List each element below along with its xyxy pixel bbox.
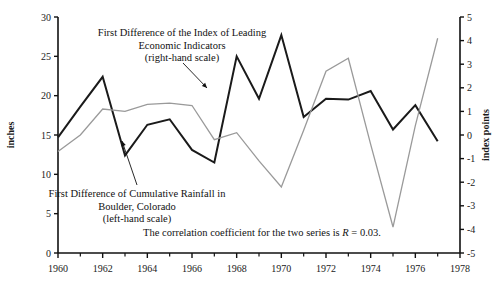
left-axis-title: inches [5,122,16,149]
lei-annotation-arrow [183,63,207,88]
x-axis-tick-label: 1974 [361,263,381,274]
lei-annotation-line: First Difference of the Index of Leading [98,27,267,38]
left-axis-tick-label: 15 [41,130,51,141]
right-axis-tick-label: 0 [467,130,472,141]
correlation-note: The correlation coefficient for the two … [143,227,381,238]
right-axis-title: index points [480,109,491,161]
rainfall-annotation-arrow-head [121,141,125,146]
rainfall-annotation-line: Boulder, Colorado [98,201,176,212]
right-axis-tick-label: 4 [467,35,472,46]
correlation-note-suffix: = 0.03. [349,227,381,238]
left-axis-tick-label: 0 [46,248,51,259]
annotations-group: First Difference of the Index of Leading… [49,27,381,238]
x-axis-tick-label: 1968 [227,263,247,274]
right-axis-tick-label: -1 [467,153,475,164]
right-axis-tick-label: -3 [467,200,475,211]
x-axis-tick-label: 1976 [405,263,425,274]
right-axis-tick-label: 3 [467,59,472,70]
x-axis-tick-label: 1978 [450,263,470,274]
chart-canvas: 302520151050543210-1-2-3-4-5196019621964… [0,0,500,289]
right-axis-tick-label: 5 [467,12,472,23]
right-axis-tick-label: 2 [467,82,472,93]
right-axis-tick-label: 1 [467,106,472,117]
right-axis-tick-label: -2 [467,177,475,188]
x-axis-tick-label: 1962 [93,263,113,274]
left-axis-tick-label: 30 [41,12,51,23]
lei-annotation-line: Economic Indicators [138,40,225,51]
x-axis-tick-label: 1966 [182,263,202,274]
left-axis-tick-label: 10 [41,169,51,180]
series-line-rainfall [58,35,438,162]
right-axis-tick-label: -5 [467,248,475,259]
lei-annotation-line: (right-hand scale) [145,52,220,64]
x-axis-tick-label: 1972 [316,263,336,274]
rainfall-annotation-line: First Difference of Cumulative Rainfall … [49,188,227,199]
left-axis-tick-label: 25 [41,51,51,62]
chart-figure: 302520151050543210-1-2-3-4-5196019621964… [0,0,500,289]
left-axis-tick-label: 5 [46,208,51,219]
rainfall-annotation-line: (left-hand scale) [103,213,172,225]
x-axis-tick-label: 1960 [48,263,68,274]
left-axis-tick-label: 20 [41,90,51,101]
right-axis-tick-label: -4 [467,224,475,235]
correlation-note-prefix: The correlation coefficient for the two … [143,227,342,238]
x-axis-tick-label: 1964 [137,263,157,274]
x-axis-tick-label: 1970 [271,263,291,274]
